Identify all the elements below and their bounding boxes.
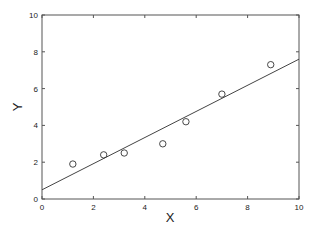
data-point [100,152,106,158]
y-tick-label: 0 [34,195,39,204]
data-points [70,61,274,167]
data-point [268,61,274,67]
x-tick-label: 6 [194,203,199,212]
plot-area [42,15,299,199]
data-point [160,141,166,147]
data-point [183,119,189,125]
x-axis-ticks: 0246810 [40,15,304,212]
y-tick-label: 8 [34,48,39,57]
x-tick-label: 4 [143,203,148,212]
x-tick-label: 8 [245,203,250,212]
data-point [121,150,127,156]
x-axis-label: X [166,210,175,225]
scatter-chart: 0246810 0246810 X Y [0,0,317,233]
data-point [70,161,76,167]
regression-line [42,59,299,190]
x-tick-label: 10 [295,203,304,212]
y-tick-label: 4 [34,121,39,130]
data-point [219,91,225,97]
y-tick-label: 6 [34,85,39,94]
fit-line [42,59,299,190]
x-tick-label: 2 [91,203,96,212]
plot-frame [42,15,299,199]
y-tick-label: 2 [34,158,39,167]
y-tick-label: 10 [29,11,38,20]
y-axis-label: Y [10,102,25,111]
x-tick-label: 0 [40,203,45,212]
y-axis-ticks: 0246810 [29,11,299,204]
